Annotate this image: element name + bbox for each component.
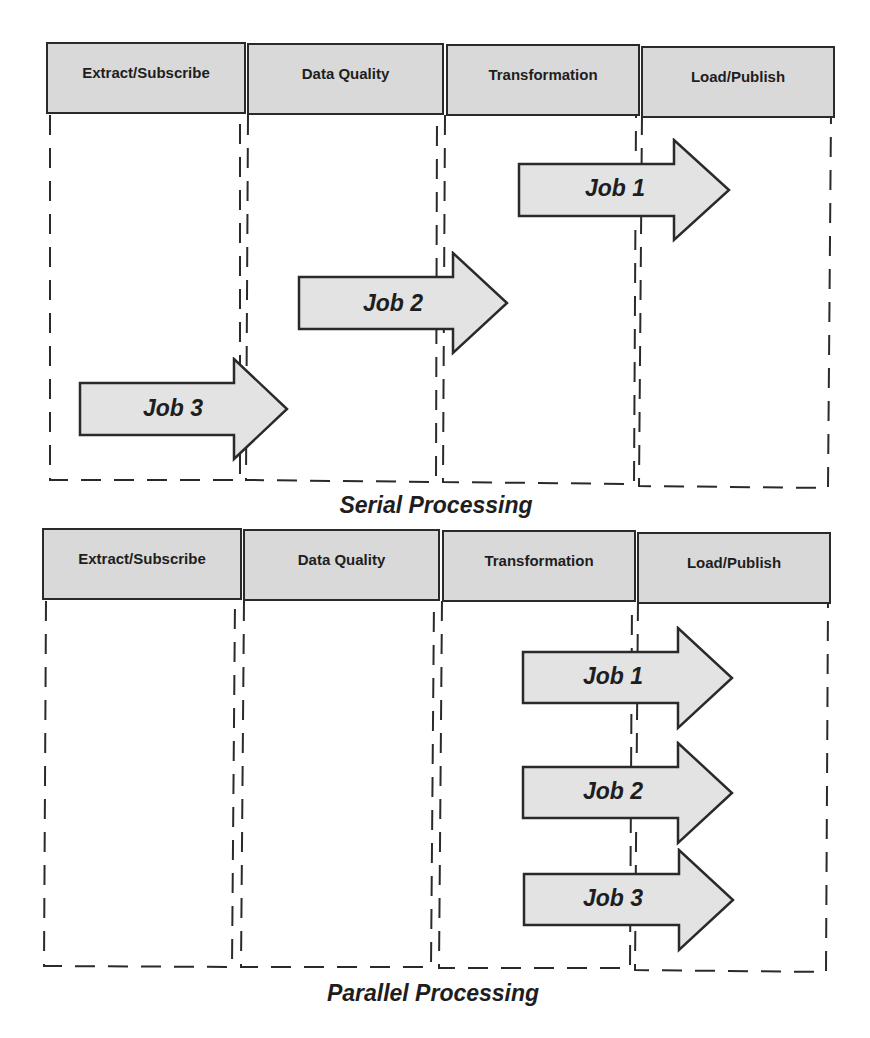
- serial-header-data-quality-label: Data Quality: [302, 65, 390, 82]
- etl-processing-diagram: Extract/Subscribe Data Quality Transform…: [0, 0, 870, 1038]
- parallel-job-2-label: Job 2: [558, 778, 668, 805]
- parallel-header-extract-subscribe-label: Extract/Subscribe: [78, 550, 206, 567]
- serial-header-data-quality: Data Quality: [247, 43, 444, 115]
- parallel-job-1-label: Job 1: [558, 663, 668, 690]
- parallel-processing-caption: Parallel Processing: [327, 980, 539, 1007]
- parallel-header-extract-subscribe: Extract/Subscribe: [42, 528, 242, 600]
- serial-job-1-label: Job 1: [560, 175, 670, 202]
- serial-header-transformation: Transformation: [446, 44, 640, 116]
- serial-header-load-publish-label: Load/Publish: [691, 68, 785, 85]
- serial-processing-caption: Serial Processing: [339, 492, 532, 519]
- serial-header-extract-subscribe-label: Extract/Subscribe: [82, 64, 210, 81]
- serial-header-load-publish: Load/Publish: [641, 46, 835, 118]
- serial-job-2-label: Job 2: [338, 290, 448, 317]
- parallel-header-transformation: Transformation: [442, 530, 636, 602]
- parallel-lane-quality: [241, 601, 434, 967]
- serial-header-extract-subscribe: Extract/Subscribe: [46, 42, 246, 114]
- serial-header-transformation-label: Transformation: [488, 66, 597, 83]
- serial-job-3-label: Job 3: [118, 395, 228, 422]
- parallel-header-load-publish-label: Load/Publish: [687, 554, 781, 571]
- parallel-header-data-quality-label: Data Quality: [298, 551, 386, 568]
- parallel-job-3-label: Job 3: [558, 885, 668, 912]
- parallel-lane-extract: [44, 601, 235, 967]
- swimlane-dashed-borders: [0, 0, 870, 1038]
- parallel-header-load-publish: Load/Publish: [637, 532, 831, 604]
- parallel-header-transformation-label: Transformation: [484, 552, 593, 569]
- parallel-header-data-quality: Data Quality: [243, 529, 440, 601]
